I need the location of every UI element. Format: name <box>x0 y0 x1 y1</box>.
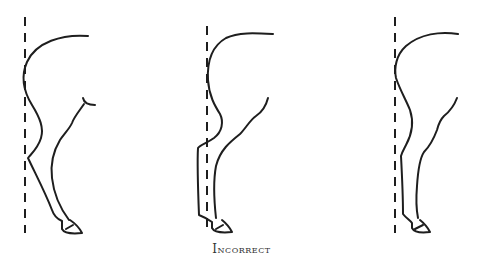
leg-2-front-outline <box>214 98 268 218</box>
figure-caption: Incorrect <box>0 242 483 256</box>
leg-1-hoof-line <box>66 225 73 229</box>
leg-2-rear-outline <box>198 33 273 232</box>
figure-leg-2 <box>198 26 273 232</box>
conformation-diagram: Incorrect <box>0 0 483 261</box>
leg-3-hoof-line <box>415 225 423 229</box>
hind-legs-illustration <box>0 0 483 261</box>
figure-leg-1 <box>23 17 95 233</box>
leg-1-rear-outline <box>23 36 88 234</box>
leg-2-hoof-line <box>216 225 223 229</box>
figure-leg-3 <box>395 17 458 233</box>
leg-3-rear-outline <box>395 33 458 232</box>
leg-3-front-outline <box>416 98 457 218</box>
leg-1-front-outline <box>51 98 95 220</box>
